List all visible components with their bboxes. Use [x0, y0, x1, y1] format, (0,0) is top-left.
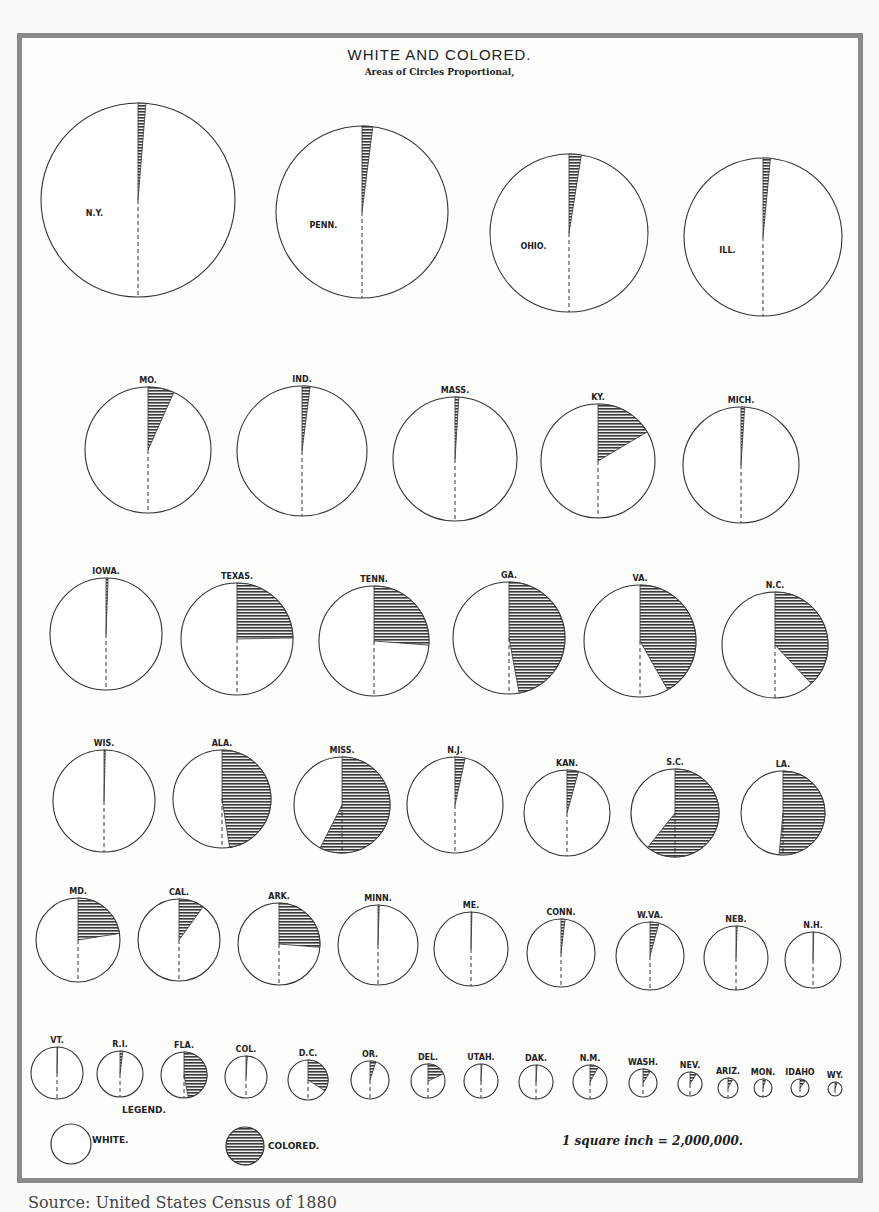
legend-title: LEGEND.: [122, 1105, 166, 1115]
pie-label: W.VA.: [637, 911, 663, 920]
pie-label: MISS.: [329, 746, 354, 755]
pie-penn: PENN.: [276, 126, 448, 298]
pie-nev: NEV.: [678, 1061, 702, 1096]
pie-label: VT.: [50, 1036, 63, 1045]
pie-cal: CAL.: [138, 888, 220, 981]
pie-la: LA.: [741, 760, 825, 855]
pie-or: OR.: [351, 1050, 389, 1099]
pie-label: TEXAS.: [221, 572, 253, 581]
pie-label: DEL.: [418, 1053, 438, 1062]
colored-wedge: [222, 750, 271, 847]
pie-va: VA.: [584, 574, 696, 697]
pie-ind: IND.: [237, 375, 367, 516]
pie-label: R.I.: [112, 1040, 127, 1049]
pie-label: KAN.: [556, 759, 578, 768]
pie-ark: ARK.: [238, 892, 320, 985]
colored-wedge: [237, 583, 293, 639]
pie-miss: MISS.: [294, 746, 390, 853]
pie-label: IDAHO: [785, 1068, 815, 1077]
pie-ri: R.I.: [97, 1040, 143, 1097]
pie-texas: TEXAS.: [181, 572, 293, 695]
pie-wva: W.VA.: [616, 911, 684, 990]
colored-wedge: [78, 898, 119, 940]
pie-label: N.M.: [580, 1054, 601, 1063]
pie-idaho: IDAHO: [785, 1068, 815, 1097]
legend-colored-label: COLORED.: [268, 1141, 319, 1151]
legend-white-swatch: [51, 1124, 91, 1164]
pie-ohio: OHIO.: [490, 154, 648, 312]
colored-wedge: [779, 771, 825, 855]
pie-me: ME.: [434, 901, 508, 986]
pie-conn: CONN.: [527, 908, 595, 987]
pie-label: WY.: [827, 1071, 843, 1080]
pie-sc: S.C.: [631, 758, 719, 857]
pie-ill: ILL.: [684, 158, 842, 316]
pie-ala: ALA.: [173, 739, 271, 848]
pie-label: NEV.: [680, 1061, 700, 1070]
pie-fla: FLA.: [161, 1041, 207, 1098]
pie-label: TENN.: [360, 575, 387, 584]
pie-label: DAK.: [525, 1054, 547, 1063]
pie-label: COL.: [236, 1045, 257, 1054]
pie-nc: N.C.: [722, 581, 828, 698]
pie-wash: WASH.: [628, 1058, 658, 1097]
pie-label: MINN.: [364, 894, 391, 903]
pie-vt: VT.: [31, 1036, 83, 1099]
pie-nh: N.H.: [785, 921, 841, 988]
pie-label: CAL.: [169, 888, 189, 897]
legend-white-label: WHITE.: [92, 1135, 129, 1145]
pie-label: ALA.: [212, 739, 233, 748]
colored-wedge: [184, 1052, 207, 1098]
pie-label: MO.: [139, 376, 157, 385]
pie-minn: MINN.: [338, 894, 418, 985]
pie-dak: DAK.: [519, 1054, 553, 1099]
pie-mo: MO.: [85, 376, 211, 513]
pie-label: N.Y.: [86, 209, 103, 218]
pie-label: IND.: [292, 375, 311, 384]
source-caption: Source: United States Census of 1880: [28, 1193, 337, 1212]
pie-label: OR.: [362, 1050, 378, 1059]
pie-wis: WIS.: [53, 739, 155, 852]
scale-note: 1 square inch = 2,000,000.: [562, 1134, 743, 1148]
pie-label: WIS.: [94, 739, 115, 748]
pie-label: MON.: [751, 1068, 776, 1077]
pie-neb: NEB.: [704, 915, 768, 990]
pie-label: MICH.: [728, 396, 755, 405]
pie-label: VA.: [632, 574, 647, 583]
pie-label: KY.: [591, 393, 605, 402]
pie-wy: WY.: [827, 1071, 843, 1096]
pie-label: ARIZ.: [716, 1067, 740, 1076]
pie-col: COL.: [225, 1045, 267, 1098]
pie-ga: GA.: [453, 571, 565, 694]
pie-label: MASS.: [441, 386, 469, 395]
pie-utah: UTAH.: [464, 1053, 498, 1098]
pie-label: ME.: [463, 901, 479, 910]
pie-ky: KY.: [541, 393, 655, 518]
pie-label: GA.: [501, 571, 517, 580]
pie-label: CONN.: [546, 908, 575, 917]
pie-label: ILL.: [719, 246, 735, 255]
pie-mon: MON.: [751, 1068, 776, 1097]
pie-label: FLA.: [174, 1041, 194, 1050]
pie-mass: MASS.: [393, 386, 517, 521]
pie-label: N.J.: [447, 746, 463, 755]
legend-colored-swatch: [226, 1127, 264, 1165]
pie-md: MD.: [36, 887, 120, 982]
pie-label: MD.: [69, 887, 87, 896]
pie-label: OHIO.: [520, 242, 546, 251]
pie-nj: N.J.: [407, 746, 503, 853]
pie-label: UTAH.: [467, 1053, 494, 1062]
pie-mich: MICH.: [683, 396, 799, 523]
pie-dc: D.C.: [288, 1049, 328, 1100]
colored-wedge: [509, 582, 565, 693]
pie-label: ARK.: [268, 892, 290, 901]
pie-kan: KAN.: [524, 759, 610, 856]
colored-wedge: [374, 586, 429, 645]
pie-label: PENN.: [309, 221, 337, 230]
pie-label: N.C.: [766, 581, 785, 590]
pie-label: S.C.: [666, 758, 684, 767]
pie-label: WASH.: [628, 1058, 658, 1067]
pie-tenn: TENN.: [319, 575, 429, 696]
pie-del: DEL.: [411, 1053, 445, 1098]
pie-label: NEB.: [725, 915, 746, 924]
